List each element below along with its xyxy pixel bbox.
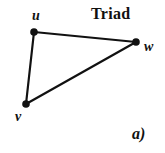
node-label-w: w	[144, 40, 153, 54]
edge-u-w	[34, 32, 136, 42]
node-u	[30, 28, 38, 36]
node-v	[22, 100, 30, 108]
figure-title: Triad	[91, 6, 130, 22]
triad-figure: u w v Triad a)	[0, 0, 165, 153]
edge-u-v	[26, 32, 34, 104]
node-label-v: v	[15, 110, 21, 124]
node-label-u: u	[32, 9, 40, 23]
edge-group	[26, 32, 136, 104]
node-w	[132, 38, 140, 46]
edge-v-w	[26, 42, 136, 104]
panel-label: a)	[132, 126, 145, 142]
